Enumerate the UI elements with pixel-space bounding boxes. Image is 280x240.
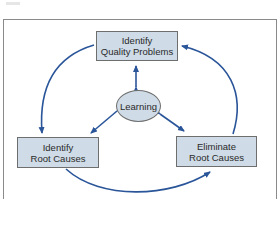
node-line2: Root Causes	[31, 153, 86, 164]
node-line1: Eliminate	[197, 141, 236, 152]
node-learning: Learning	[116, 90, 161, 122]
node-identify-root-causes: Identify Root Causes	[17, 137, 99, 168]
arrow-top-to-left	[42, 45, 94, 133]
node-label: Learning	[120, 101, 157, 112]
node-eliminate-root-causes: Eliminate Root Causes	[176, 136, 257, 167]
node-line2: Root Causes	[189, 152, 244, 163]
node-identify-quality-problems: Identify Quality Problems	[96, 31, 178, 61]
arrow-center-left	[91, 111, 117, 133]
arrow-right-to-top	[182, 46, 237, 134]
node-line1: Identify	[122, 35, 153, 46]
node-line1: Identify	[43, 142, 74, 153]
arrow-left-to-right	[66, 169, 210, 192]
arrow-center-right	[160, 114, 184, 131]
node-line2: Quality Problems	[101, 46, 173, 57]
